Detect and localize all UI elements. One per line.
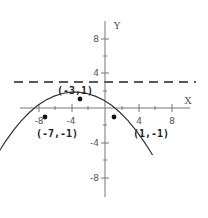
label-left: (-7,-1) bbox=[36, 128, 78, 139]
x-axis-title: X bbox=[184, 95, 192, 106]
point-vertex bbox=[78, 97, 83, 102]
x-tick-label: 8 bbox=[169, 116, 175, 126]
label-right: (1,-1) bbox=[133, 128, 169, 139]
y-tick-label: -8 bbox=[90, 173, 99, 183]
graph: -8 -4 4 8 8 4 -4 -8 X Y (-3,1) (-7,-1) (… bbox=[0, 0, 208, 218]
x-tick-label: -4 bbox=[67, 116, 76, 126]
point-left bbox=[43, 115, 48, 120]
x-tick-label: 4 bbox=[136, 116, 142, 126]
point-right bbox=[112, 115, 117, 120]
y-tick-label: -4 bbox=[90, 138, 99, 148]
parabola-curve bbox=[0, 92, 153, 155]
y-tick-label: 8 bbox=[93, 34, 99, 44]
y-axis-title: Y bbox=[113, 20, 121, 31]
label-vertex: (-3,1) bbox=[57, 85, 93, 96]
y-tick-label: 4 bbox=[93, 68, 99, 78]
x-tick-label: -8 bbox=[35, 116, 44, 126]
